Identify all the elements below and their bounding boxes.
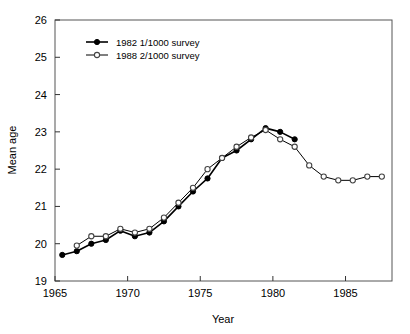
legend-label: 1988 2/1000 survey: [116, 50, 200, 61]
y-tick-label: 21: [35, 200, 47, 212]
chart-figure: 1920212223242526 19651970197519801985 19…: [0, 0, 410, 334]
legend-entry-2: 1988 2/1000 survey: [86, 50, 200, 61]
data-point: [89, 241, 94, 246]
chart-legend: 1982 1/1000 survey1988 2/1000 survey: [86, 37, 200, 61]
data-point: [336, 178, 341, 183]
data-series-group: [60, 126, 385, 258]
data-point: [147, 226, 152, 231]
data-point: [321, 174, 326, 179]
legend-label: 1982 1/1000 survey: [116, 37, 200, 48]
legend-entry-1: 1982 1/1000 survey: [86, 37, 200, 48]
data-point: [74, 243, 79, 248]
y-tick-label: 24: [35, 89, 47, 101]
line-chart: 1920212223242526 19651970197519801985 19…: [0, 0, 410, 334]
data-point: [248, 135, 253, 140]
data-point: [307, 163, 312, 168]
data-point: [263, 127, 268, 132]
data-point: [219, 155, 224, 160]
legend-marker-filled-circle: [94, 39, 99, 44]
y-tick-label: 25: [35, 51, 47, 63]
data-point: [379, 174, 384, 179]
x-tick-label: 1975: [188, 287, 212, 299]
data-point: [234, 144, 239, 149]
y-tick-label: 26: [35, 14, 47, 26]
x-axis-title: Year: [212, 313, 235, 325]
x-tick-label: 1985: [333, 287, 357, 299]
data-point: [190, 185, 195, 190]
data-point: [205, 167, 210, 172]
x-axis-ticks: 19651970197519801985: [43, 276, 358, 299]
series-2: [74, 127, 384, 248]
data-point: [350, 178, 355, 183]
x-tick-label: 1980: [261, 287, 285, 299]
data-point: [292, 144, 297, 149]
y-axis-ticks: 1920212223242526: [35, 14, 60, 287]
data-point: [103, 234, 108, 239]
legend-marker-open-circle: [94, 52, 99, 57]
data-point: [118, 226, 123, 231]
data-point: [74, 249, 79, 254]
data-point: [278, 137, 283, 142]
x-tick-label: 1965: [43, 287, 67, 299]
data-point: [292, 137, 297, 142]
y-axis-title: Mean age: [6, 126, 18, 175]
x-tick-label: 1970: [115, 287, 139, 299]
y-tick-label: 20: [35, 238, 47, 250]
series-1: [60, 126, 298, 258]
data-point: [132, 230, 137, 235]
data-point: [176, 200, 181, 205]
data-point: [365, 174, 370, 179]
data-point: [278, 129, 283, 134]
data-point: [161, 215, 166, 220]
data-point: [205, 176, 210, 181]
y-tick-label: 22: [35, 163, 47, 175]
y-tick-label: 19: [35, 275, 47, 287]
data-point: [89, 234, 94, 239]
data-point: [60, 252, 65, 257]
y-tick-label: 23: [35, 126, 47, 138]
